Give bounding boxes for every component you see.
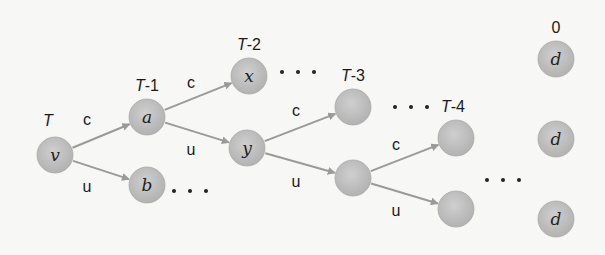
ellipsis-after-b [172, 189, 208, 193]
edge-n3b-n4a [371, 145, 439, 171]
node-n4a [438, 120, 474, 156]
time-label-t2: T-2 [237, 36, 261, 53]
ellipsis-dot [204, 189, 208, 193]
edge-v-b [73, 161, 129, 179]
node-circle [438, 120, 474, 156]
nodes-layer: vabxyddd [37, 41, 574, 237]
ellipsis-dot [172, 189, 176, 193]
node-label-d1: d [551, 49, 562, 69]
node-d2: d [538, 121, 574, 157]
edge-a-y [165, 123, 229, 143]
ellipsis-dot [485, 178, 489, 182]
edge-a-x [165, 83, 232, 110]
ellipsis-dot [409, 105, 413, 109]
node-b: b [129, 167, 165, 203]
node-label-v: v [50, 145, 60, 165]
edge-label-n3b-n4b: u [392, 202, 401, 219]
ellipsis-dot [188, 189, 192, 193]
node-label-a: a [142, 107, 152, 127]
node-d3: d [538, 201, 574, 237]
node-d1: d [538, 41, 574, 77]
ellipsis-dot [393, 105, 397, 109]
node-circle [335, 89, 371, 125]
decision-tree-diagram: cucucucu vabxyddd TT-1T-2T-3T-40 [0, 0, 605, 255]
time-labels-layer: TT-1T-2T-3T-40 [43, 19, 560, 129]
time-label-t5: 0 [552, 19, 561, 36]
node-x: x [231, 58, 267, 94]
node-n4b [438, 191, 474, 227]
edge-label-v-b: u [83, 178, 92, 195]
ellipsis-dot [517, 178, 521, 182]
time-label-t1: T-1 [135, 77, 159, 94]
edge-label-a-x: c [187, 74, 195, 91]
ellipsis-dot [312, 70, 316, 74]
node-circle [335, 160, 371, 196]
ellipsis-dot [501, 178, 505, 182]
ellipsis-dot [425, 105, 429, 109]
node-a: a [129, 99, 165, 135]
ellipsis-dot [280, 70, 284, 74]
edge-label-y-n3a: c [292, 102, 300, 119]
edge-label-v-a: c [83, 111, 91, 128]
node-label-y: y [241, 138, 252, 158]
node-label-d2: d [551, 129, 562, 149]
time-label-t4: T-4 [441, 98, 465, 115]
node-circle [438, 191, 474, 227]
node-y: y [229, 130, 265, 166]
node-v: v [37, 137, 73, 173]
edge-v-a [73, 124, 130, 147]
node-label-x: x [244, 66, 254, 86]
diagram-canvas: cucucucu vabxyddd TT-1T-2T-3T-40 [0, 0, 605, 255]
edge-y-n3a [265, 114, 336, 141]
edge-label-y-n3b: u [292, 173, 301, 190]
node-label-d3: d [551, 209, 562, 229]
time-label-t3: T-3 [341, 67, 365, 84]
ellipsis-after-x [280, 70, 316, 74]
ellipsis-after-n4 [485, 178, 521, 182]
ellipsis-dot [296, 70, 300, 74]
edge-y-n3b [265, 153, 334, 173]
edge-label-n3b-n4a: c [392, 136, 400, 153]
time-label-t0: T [43, 112, 54, 129]
node-label-b: b [142, 175, 153, 195]
edge-label-a-y: u [187, 141, 196, 158]
node-n3a [335, 89, 371, 125]
edge-n3b-n4b [371, 183, 438, 203]
ellipsis-after-n3a [393, 105, 429, 109]
node-n3b [335, 160, 371, 196]
